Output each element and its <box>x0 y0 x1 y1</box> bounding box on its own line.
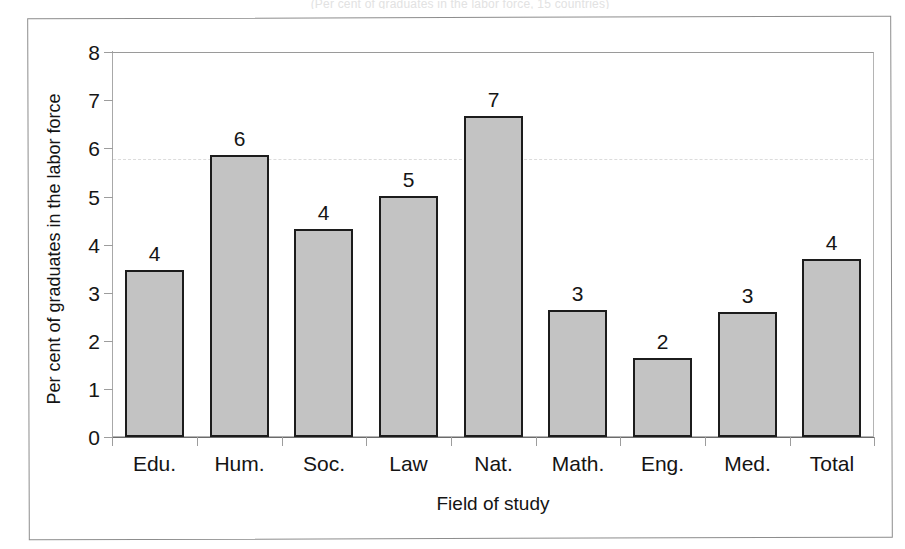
bar-law[interactable] <box>379 196 438 437</box>
bar-med[interactable] <box>718 312 777 437</box>
y-tick-3 <box>104 293 113 294</box>
y-axis-label-2: 2 <box>74 331 100 352</box>
x-category-label-eng: Eng. <box>620 452 705 476</box>
bar-value-law: 5 <box>379 169 438 190</box>
y-tick-7 <box>104 100 113 101</box>
x-category-label-hum: Hum. <box>197 452 282 476</box>
x-tick-7 <box>705 437 706 446</box>
x-tick-8 <box>790 437 791 446</box>
bar-math[interactable] <box>548 310 607 437</box>
x-tick-0 <box>112 437 113 446</box>
x-category-label-nat: Nat. <box>451 452 536 476</box>
y-tick-8 <box>104 52 113 53</box>
y-tick-5 <box>104 197 113 198</box>
y-tick-4 <box>104 245 113 246</box>
y-axis-title: Per cent of graduates in the labor force <box>45 49 63 449</box>
y-axis-label-6: 6 <box>74 138 100 159</box>
x-tick-5 <box>536 437 537 446</box>
x-category-label-total: Total <box>790 452 874 476</box>
x-category-label-edu: Edu. <box>112 452 197 476</box>
y-tick-6 <box>104 148 113 149</box>
x-tick-3 <box>366 437 367 446</box>
y-axis-label-8: 8 <box>74 42 100 63</box>
x-tick-9 <box>874 437 875 446</box>
bar-value-hum: 6 <box>210 128 269 149</box>
bar-total[interactable] <box>802 259 861 437</box>
bar-value-total: 4 <box>802 232 861 253</box>
bar-edu[interactable] <box>125 270 184 437</box>
y-axis-tick-labels: 8 7 6 5 4 3 2 1 0 <box>60 0 100 549</box>
bar-nat[interactable] <box>464 116 523 437</box>
y-axis-label-7: 7 <box>74 90 100 111</box>
bar-chart: 8 7 6 5 4 3 2 1 0 Per cent of graduates … <box>0 0 905 549</box>
x-tick-2 <box>282 437 283 446</box>
x-category-label-med: Med. <box>705 452 790 476</box>
y-tick-1 <box>104 389 113 390</box>
x-category-label-math: Math. <box>536 452 620 476</box>
x-axis-line <box>111 437 875 438</box>
y-axis-label-1: 1 <box>74 379 100 400</box>
x-tick-6 <box>620 437 621 446</box>
y-axis-label-4: 4 <box>74 235 100 256</box>
x-category-label-soc: Soc. <box>282 452 366 476</box>
x-tick-4 <box>451 437 452 446</box>
bar-value-eng: 2 <box>633 331 692 352</box>
y-axis-label-5: 5 <box>74 187 100 208</box>
y-tick-2 <box>104 341 113 342</box>
bar-value-math: 3 <box>548 283 607 304</box>
x-category-label-law: Law <box>366 452 451 476</box>
bar-value-edu: 4 <box>125 243 184 264</box>
bar-value-med: 3 <box>718 285 777 306</box>
bar-value-nat: 7 <box>464 89 523 110</box>
y-axis-label-0: 0 <box>74 427 100 448</box>
bar-soc[interactable] <box>294 229 353 437</box>
y-axis-label-3: 3 <box>74 283 100 304</box>
bar-hum[interactable] <box>210 155 269 437</box>
bar-eng[interactable] <box>633 358 692 437</box>
x-axis-title: Field of study <box>112 494 874 513</box>
bar-value-soc: 4 <box>294 202 353 223</box>
x-tick-1 <box>197 437 198 446</box>
